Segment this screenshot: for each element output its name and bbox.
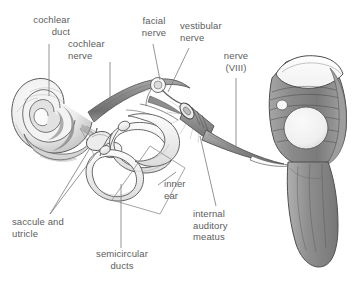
label-internal-auditory-meatus: internal auditory meatus (193, 208, 255, 243)
label-nerve-viii: nerve (VIII) (212, 50, 260, 73)
label-vestibular-nerve: vestibular nerve (180, 20, 254, 43)
label-saccule-and-utricle: saccule and utricle (12, 216, 96, 239)
leader-facial-nerve (153, 44, 160, 80)
label-cochlear-nerve: cochlear nerve (68, 38, 138, 61)
label-semicircular-ducts: semicircular ducts (78, 248, 166, 271)
label-inner-ear: inner ear (164, 178, 208, 201)
cochlea (12, 78, 97, 161)
label-cochlear-duct: cochlear duct (6, 14, 70, 37)
brainstem (269, 56, 346, 267)
anatomy-illustration (0, 0, 360, 289)
figure-canvas: cochlear duct cochlear nerve facial nerv… (0, 0, 360, 289)
label-facial-nerve: facial nerve (130, 15, 178, 38)
